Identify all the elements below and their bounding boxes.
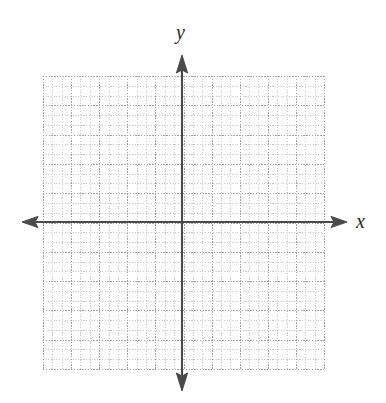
grid-line-vertical-major — [324, 76, 325, 369]
y-axis-label: y — [176, 22, 185, 42]
x-axis-label: x — [356, 211, 365, 231]
grid-line-horizontal-major — [43, 193, 324, 194]
grid-line-horizontal-major — [43, 340, 324, 341]
grid-line-horizontal-major — [43, 105, 324, 106]
grid-major-horizontal-lines — [43, 76, 324, 369]
grid-line-horizontal-major — [43, 252, 324, 253]
y-axis-arrow-up — [176, 55, 187, 73]
grid-line-horizontal-major — [43, 310, 324, 311]
grid-line-horizontal-major — [43, 281, 324, 282]
x-axis-arrow-left — [22, 216, 38, 227]
coordinate-plane-figure: y x — [0, 0, 386, 403]
grid-line-horizontal-major — [43, 164, 324, 165]
y-axis-arrow-down — [176, 373, 187, 391]
grid-line-horizontal-major — [43, 369, 324, 370]
grid-area — [43, 76, 324, 369]
grid-line-horizontal-major — [43, 135, 324, 136]
x-axis-arrow-right — [331, 216, 347, 227]
grid-line-horizontal-major — [43, 76, 324, 77]
grid-line-horizontal-major — [43, 223, 324, 224]
